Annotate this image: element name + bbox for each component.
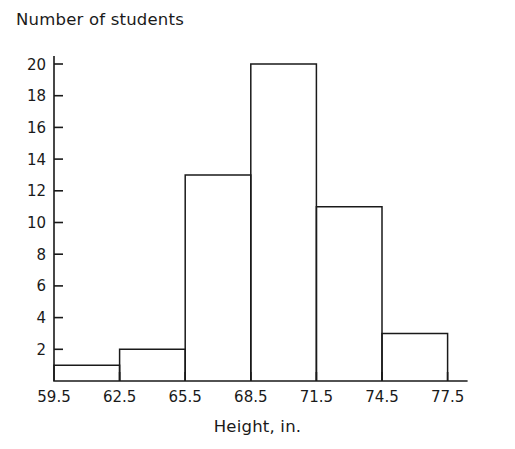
x-tick-label: 65.5 [168,388,201,406]
histogram-plot-area: 2468101214161820 59.562.565.568.571.574.… [0,0,515,449]
y-tick-label: 20 [27,56,46,74]
histogram-bar [251,64,317,381]
histogram-figure: Number of students 2468101214161820 59.5… [0,0,515,449]
y-tick-label: 4 [36,309,46,327]
axis-lines [54,56,468,381]
histogram-bar [120,349,186,381]
x-tick-label: 77.5 [431,388,464,406]
y-axis-ticks: 2468101214161820 [27,56,63,359]
y-tick-label: 18 [27,87,46,105]
histogram-bar [185,175,251,381]
y-tick-label: 16 [27,119,46,137]
histogram-bar [316,207,382,381]
x-tick-label: 68.5 [234,388,267,406]
y-tick-label: 10 [27,214,46,232]
y-tick-label: 14 [27,151,46,169]
histogram-bar [54,365,120,381]
x-tick-label: 71.5 [300,388,333,406]
histogram-bar [382,333,448,381]
y-tick-label: 6 [36,277,46,295]
x-tick-label: 59.5 [37,388,70,406]
y-tick-label: 2 [36,341,46,359]
y-tick-label: 8 [36,246,46,264]
x-tick-label: 74.5 [365,388,398,406]
histogram-bars [54,64,448,381]
x-axis-title: Height, in. [0,417,515,436]
y-tick-label: 12 [27,182,46,200]
x-tick-label: 62.5 [103,388,136,406]
